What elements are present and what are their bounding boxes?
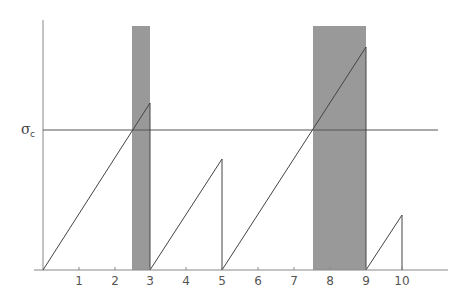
x-tick-label-2: 2 (111, 274, 119, 288)
x-tick-label-6: 6 (254, 274, 262, 288)
sawtooth-diagram: 1 2 3 4 5 6 7 8 9 10 σ c (0, 0, 469, 301)
x-tick-label-3: 3 (146, 274, 154, 288)
sigma-c-subscript: c (30, 129, 35, 139)
shaded-band-2 (313, 26, 366, 270)
x-tick-label-10: 10 (394, 274, 409, 288)
x-tick-label-5: 5 (218, 274, 226, 288)
x-tick-label-1: 1 (75, 274, 83, 288)
x-tick-label-9: 9 (362, 274, 370, 288)
shaded-band-1 (132, 26, 150, 270)
x-tick-label-4: 4 (182, 274, 190, 288)
x-tick-label-7: 7 (290, 274, 298, 288)
x-tick-label-8: 8 (326, 274, 334, 288)
